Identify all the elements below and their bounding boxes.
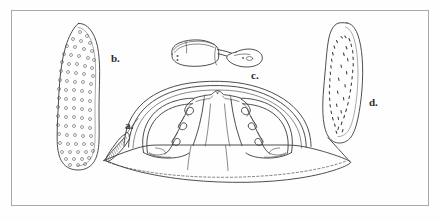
specimen-c-dot-1	[177, 55, 179, 57]
figure-label-b: b.	[111, 53, 120, 64]
specimen-a-median-column-left	[193, 100, 204, 146]
specimen-c-terminal-paddle	[227, 49, 263, 67]
specimen-c-stalked-appendage	[172, 40, 263, 67]
specimen-a-apex-arch	[193, 91, 242, 99]
specimen-b-porose-valve	[57, 23, 100, 170]
specimen-a-central-dome	[104, 81, 351, 182]
figure-label-d: d.	[369, 97, 378, 108]
specimen-b-outline	[57, 23, 100, 170]
specimen-c-dot-2	[177, 59, 179, 61]
specimen-a-inner-chamber-right-outer	[243, 98, 293, 152]
specimen-a-scalloped-ridge-right	[241, 99, 268, 152]
specimen-a-median-column-right	[231, 100, 242, 146]
specimen-illustrations: .ink { fill: none; stroke: #3a3a3a; stro…	[0, 0, 441, 220]
specimen-a-inner-chamber-left-outer	[143, 98, 193, 152]
specimen-a-apex-dot	[217, 93, 219, 95]
specimen-d-striate-valve	[323, 23, 363, 143]
figure-label-c: c.	[251, 70, 259, 81]
specimen-a-scalloped-ridge-left	[167, 99, 194, 152]
specimen-a-outer-arch-3	[133, 90, 302, 148]
figure-page: .ink { fill: none; stroke: #3a3a3a; stro…	[0, 0, 441, 220]
specimen-d-outline	[323, 23, 363, 143]
specimen-a-median-column-inner-right	[225, 104, 230, 146]
specimen-a-median-column-inner-left	[205, 104, 210, 146]
figure-label-a: a.	[125, 120, 133, 131]
specimen-a-outer-arch-2	[129, 86, 307, 148]
specimen-a-apex-notch	[216, 92, 220, 93]
